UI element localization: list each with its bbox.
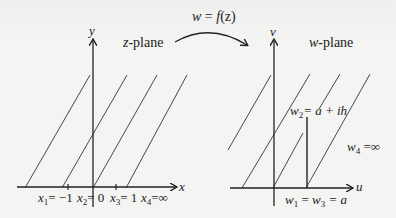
point-x3: x3= 1	[110, 191, 137, 207]
z-line-4	[126, 75, 187, 188]
v-axis-label: v	[270, 25, 276, 38]
point-w2: w2= a + ih	[290, 104, 347, 120]
x-axis-label: x	[179, 180, 185, 193]
z-line-2	[62, 75, 127, 188]
z-plane-lines	[25, 75, 187, 188]
u-axis-label: u	[356, 180, 363, 193]
w-line-2	[242, 74, 310, 188]
w-line-3-lower	[273, 133, 303, 188]
mapping-label: w = f(z)	[192, 10, 236, 24]
point-w4: w4 =∞	[347, 140, 380, 156]
z-line-3	[93, 75, 157, 188]
z-plane-title: z-plane	[123, 36, 163, 50]
point-x2: x2= 0	[77, 191, 104, 207]
w-plane-title: w-plane	[309, 36, 353, 50]
w-plane-lines	[228, 74, 370, 188]
y-axis-label: y	[89, 24, 95, 37]
z-line-1	[25, 75, 90, 188]
point-x1: x1= −1	[38, 191, 73, 207]
w-line-4	[306, 74, 370, 188]
point-x4: x4=∞	[141, 191, 168, 207]
point-w1-w3: w1 = w3 = a	[285, 193, 347, 209]
mapping-arrow	[175, 33, 247, 45]
w-line-1	[228, 75, 271, 150]
